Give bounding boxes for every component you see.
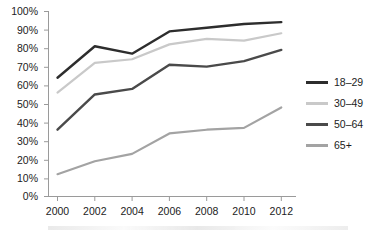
- legend-item[interactable]: 50–64: [306, 114, 369, 135]
- series-line-30-49: [58, 33, 282, 92]
- legend-item[interactable]: 30–49: [306, 93, 369, 114]
- x-axis-label-2006: 2006: [149, 206, 189, 217]
- legend-item[interactable]: 18–29: [306, 72, 369, 93]
- series-line-65-: [58, 107, 282, 174]
- y-axis-label-90: 90%: [4, 25, 38, 36]
- y-axis-label-80: 80%: [4, 43, 38, 54]
- x-axis-label-2012: 2012: [261, 206, 301, 217]
- y-axis-label-20: 20%: [4, 155, 38, 166]
- y-axis-label-100: 100%: [4, 6, 38, 17]
- legend-swatch-icon: [306, 123, 328, 126]
- line-chart: 100% 90% 80% 70% 60% 50% 40% 30% 20% 10%…: [0, 0, 369, 231]
- y-axis-label-40: 40%: [4, 118, 38, 129]
- y-axis-label-70: 70%: [4, 62, 38, 73]
- chart-legend: 18–2930–4950–6465+: [306, 72, 369, 156]
- y-axis-label-50: 50%: [4, 99, 38, 110]
- y-axis-label-60: 60%: [4, 80, 38, 91]
- legend-swatch-icon: [306, 81, 328, 84]
- legend-swatch-icon: [306, 102, 328, 105]
- series-line-18-29: [58, 22, 282, 78]
- y-axis-label-10: 10%: [4, 173, 38, 184]
- x-axis-label-2000: 2000: [38, 206, 78, 217]
- x-axis-label-2010: 2010: [224, 206, 264, 217]
- x-axis-label-2002: 2002: [75, 206, 115, 217]
- plot-area: 100% 90% 80% 70% 60% 50% 40% 30% 20% 10%…: [0, 0, 300, 231]
- y-axis-label-30: 30%: [4, 136, 38, 147]
- series-group: [58, 22, 282, 174]
- legend-item-label: 18–29: [334, 77, 363, 88]
- legend-item-label: 50–64: [334, 119, 363, 130]
- legend-item[interactable]: 65+: [306, 135, 369, 156]
- series-line-50-64: [58, 50, 282, 130]
- legend-swatch-icon: [306, 144, 328, 147]
- page-edge-artifact: [48, 226, 348, 230]
- x-axis-label-2004: 2004: [112, 206, 152, 217]
- y-axis-ticks: [44, 12, 48, 197]
- x-axis-ticks: [58, 197, 282, 201]
- x-axis-label-2008: 2008: [187, 206, 227, 217]
- legend-item-label: 30–49: [334, 98, 363, 109]
- y-axis-label-0: 0%: [4, 191, 38, 202]
- legend-item-label: 65+: [334, 140, 352, 151]
- chart-canvas: [0, 0, 300, 231]
